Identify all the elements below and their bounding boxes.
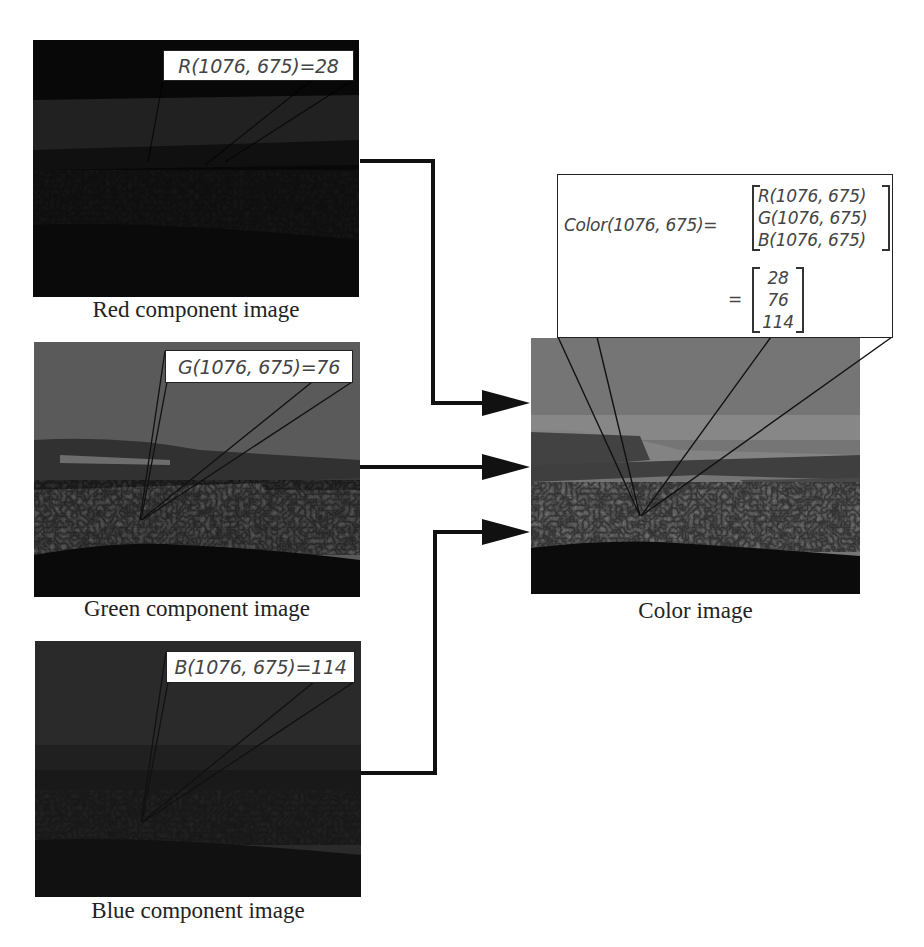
arrow-blue-to-color xyxy=(361,519,530,773)
symbolic-vector: R(1076, 675) G(1076, 675) B(1076, 675) xyxy=(752,185,890,251)
arrowhead-icon xyxy=(482,454,530,480)
vector-value-r: 28 xyxy=(758,267,798,289)
diagram-graphics xyxy=(0,0,924,947)
formula-equals: = xyxy=(728,289,742,309)
rgb-decomposition-diagram: R(1076, 675)=28 G(1076, 675)=76 B(1076, … xyxy=(0,0,924,947)
vector-row-r: R(1076, 675) xyxy=(758,185,884,207)
arrow-red-to-color xyxy=(360,161,530,416)
numeric-vector: 28 76 114 xyxy=(752,267,804,333)
arrow-green-to-color xyxy=(360,454,530,480)
vector-value-g: 76 xyxy=(758,289,798,311)
vector-row-b: B(1076, 675) xyxy=(758,229,884,251)
arrowhead-icon xyxy=(482,390,530,416)
red-caption: Red component image xyxy=(33,297,359,323)
color-image xyxy=(531,337,892,594)
arrowhead-icon xyxy=(482,519,530,545)
formula-lhs: Color(1076, 675)= xyxy=(564,215,717,235)
color-caption: Color image xyxy=(531,598,860,624)
red-value-label: R(1076, 675)=28 xyxy=(163,50,354,81)
vector-row-g: G(1076, 675) xyxy=(758,207,884,229)
blue-value-label: B(1076, 675)=114 xyxy=(166,651,355,683)
green-value-label: G(1076, 675)=76 xyxy=(165,350,353,383)
color-formula-box: Color(1076, 675)= R(1076, 675) G(1076, 6… xyxy=(557,174,893,338)
green-caption: Green component image xyxy=(34,596,360,622)
vector-value-b: 114 xyxy=(758,311,798,333)
blue-caption: Blue component image xyxy=(35,898,361,924)
